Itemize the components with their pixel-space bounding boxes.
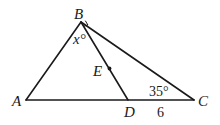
label-b: B (74, 6, 83, 22)
point-e-dot (108, 67, 112, 71)
angle-x-label: x° (72, 31, 86, 47)
segment-bd (81, 22, 128, 100)
angle-c-label: 35° (149, 84, 169, 99)
triangle-diagram: B A C D E x° 35° 6 (0, 0, 220, 125)
label-a: A (11, 93, 22, 109)
length-dc-label: 6 (157, 105, 164, 120)
label-e: E (92, 63, 102, 79)
label-c: C (198, 93, 209, 109)
segment-bc (81, 22, 194, 100)
label-d: D (123, 104, 135, 120)
